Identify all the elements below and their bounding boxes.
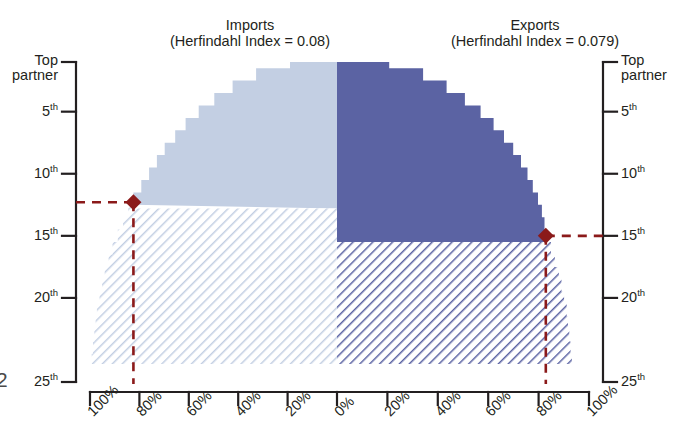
y-label-right-1: Toppartner [621, 53, 679, 83]
y-label-right-25: 25th [621, 372, 679, 389]
imports-title-main: Imports [120, 18, 380, 34]
exports-solid-area [337, 62, 547, 242]
y-label-left-10: 10th [0, 164, 58, 181]
data-areas [92, 62, 572, 364]
imports-hatched-area [92, 205, 337, 364]
y-label-left-1: Toppartner [0, 53, 58, 83]
y-label-left-15: 15th [0, 226, 58, 243]
y-label-right-10: 10th [621, 164, 679, 181]
imports-panel-title: Imports (Herfindahl Index = 0.08) [120, 18, 380, 49]
y-label-right-15: 15th [621, 226, 679, 243]
y-label-left-5: 5th [0, 102, 58, 119]
y-label-left-20: 20th [0, 288, 58, 305]
exports-title-sub: (Herfindahl Index = 0.079) [400, 34, 670, 50]
y-label-right-5: 5th [621, 102, 679, 119]
exports-title-main: Exports [400, 18, 670, 34]
imports-title-sub: (Herfindahl Index = 0.08) [120, 34, 380, 50]
chart-figure: Imports (Herfindahl Index = 0.08) Export… [0, 0, 679, 447]
y-label-left-25: 25th [0, 372, 58, 389]
y-label-right-20: 20th [621, 288, 679, 305]
imports-solid-area [133, 62, 337, 209]
exports-panel-title: Exports (Herfindahl Index = 0.079) [400, 18, 670, 49]
exports-hatched-area [337, 242, 572, 364]
plot-canvas [0, 0, 679, 447]
